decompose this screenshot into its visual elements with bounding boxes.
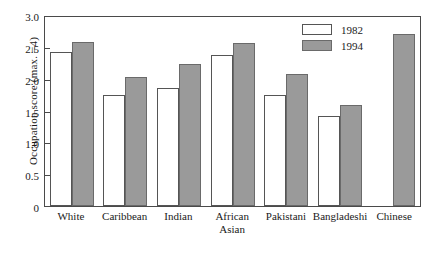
y-axis-title: Occupation score (max. =4)	[27, 6, 39, 196]
bar-1982	[50, 52, 72, 206]
legend: 1982 1994	[302, 23, 363, 55]
bar-group	[206, 17, 260, 206]
y-axis-tick: 2.5	[25, 43, 45, 55]
x-axis-label: Caribbean	[98, 210, 152, 235]
legend-swatch-1994	[302, 40, 332, 51]
bar-group	[152, 17, 206, 206]
y-axis-tick: 1.0	[25, 138, 45, 150]
legend-item-1994: 1994	[302, 39, 363, 52]
x-axis-label: Indian	[152, 210, 206, 235]
bar-1994	[233, 43, 255, 206]
bar-1982	[157, 88, 179, 206]
bar-1994	[393, 34, 415, 206]
x-axis-label: AfricanAsian	[205, 210, 259, 235]
x-axis-label: Bangladeshi	[313, 210, 367, 235]
legend-item-1982: 1982	[302, 23, 363, 36]
bar-1994	[179, 64, 201, 206]
bar-chart: Occupation score (max. =4) 00.51.01.52.0…	[0, 0, 429, 260]
bar-groups	[45, 17, 420, 206]
legend-label-1982: 1982	[341, 24, 363, 36]
y-axis-tick: 0.5	[25, 170, 45, 182]
y-axis-tick: 3.0	[25, 11, 45, 23]
bar-group	[45, 17, 99, 206]
bar-group	[99, 17, 153, 206]
x-axis-labels: WhiteCaribbeanIndianAfricanAsianPakistan…	[44, 210, 421, 235]
plot-area: 00.51.01.52.02.53.0 1982 1994	[44, 16, 421, 207]
legend-label-1994: 1994	[341, 40, 363, 52]
bar-1994	[340, 105, 362, 206]
bar-1994	[286, 74, 308, 206]
bar-1982	[211, 55, 233, 206]
y-axis-tick: 1.5	[25, 107, 45, 119]
y-axis-tick: 2.0	[25, 75, 45, 87]
x-axis-label: White	[44, 210, 98, 235]
x-axis-label: Chinese	[367, 210, 421, 235]
bar-1982	[103, 95, 125, 206]
bar-1982	[318, 116, 340, 206]
bar-1994	[125, 77, 147, 206]
bar-group	[366, 17, 420, 206]
x-axis-label: Pakistani	[259, 210, 313, 235]
bar-1982	[264, 95, 286, 206]
legend-swatch-1982	[302, 24, 332, 35]
bar-1994	[72, 42, 94, 206]
